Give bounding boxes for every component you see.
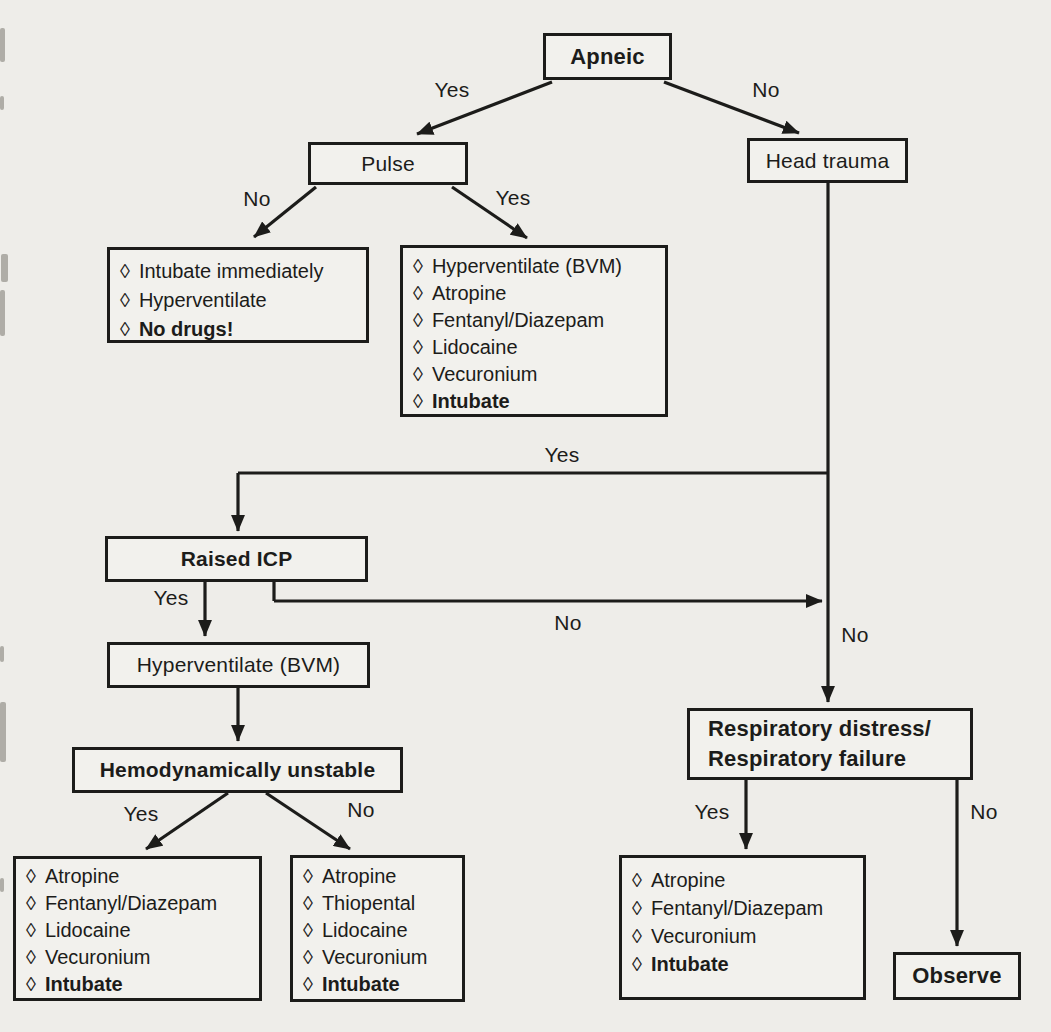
label-respiratory-no: No <box>970 800 997 824</box>
diamond-bullet-icon: ◊ <box>413 361 423 388</box>
scan-artifact <box>0 646 4 662</box>
list-item: ◊ Intubate <box>26 971 253 998</box>
label-raised-icp-no: No <box>554 611 581 635</box>
actions-respiratory-yes: ◊ Atropine ◊ Fentanyl/Diazepam ◊ Vecuron… <box>619 855 866 1000</box>
label-head-trauma-yes: Yes <box>544 443 579 467</box>
diamond-bullet-icon: ◊ <box>413 280 423 307</box>
list-item: ◊ Intubate <box>303 971 456 998</box>
diamond-bullet-icon: ◊ <box>303 890 313 917</box>
diamond-bullet-icon: ◊ <box>26 863 36 890</box>
diamond-bullet-icon: ◊ <box>26 971 36 998</box>
list-item: ◊ Atropine <box>413 280 659 307</box>
label-respiratory-yes: Yes <box>694 800 729 824</box>
list-item: ◊ Hyperventilate <box>120 286 360 315</box>
scan-artifact <box>1 254 8 282</box>
respiratory-line-1: Respiratory distress/ <box>708 714 931 744</box>
scan-artifact <box>0 878 4 892</box>
diamond-bullet-icon: ◊ <box>413 388 423 415</box>
node-head-trauma: Head trauma <box>747 138 908 183</box>
label-pulse-no: No <box>243 187 270 211</box>
list-item: ◊ Fentanyl/Diazepam <box>413 307 659 334</box>
diamond-bullet-icon: ◊ <box>303 917 313 944</box>
scan-artifact <box>0 28 5 62</box>
node-apneic: Apneic <box>543 33 672 80</box>
node-observe: Observe <box>893 952 1021 1000</box>
diamond-bullet-icon: ◊ <box>303 863 313 890</box>
diamond-bullet-icon: ◊ <box>632 866 642 894</box>
list-item: ◊ Atropine <box>26 863 253 890</box>
diamond-bullet-icon: ◊ <box>303 971 313 998</box>
label-unstable-yes: Yes <box>123 802 158 826</box>
diamond-bullet-icon: ◊ <box>26 890 36 917</box>
actions-pulse-yes: ◊ Hyperventilate (BVM) ◊ Atropine ◊ Fent… <box>400 245 668 417</box>
diamond-bullet-icon: ◊ <box>26 917 36 944</box>
node-pulse: Pulse <box>308 142 468 185</box>
list-item: ◊ Lidocaine <box>303 917 456 944</box>
label-apneic-yes: Yes <box>434 78 469 102</box>
scan-artifact <box>0 702 6 762</box>
diamond-bullet-icon: ◊ <box>413 253 423 280</box>
label-head-trauma-no: No <box>841 623 868 647</box>
list-item: ◊ Intubate <box>413 388 659 415</box>
diamond-bullet-icon: ◊ <box>413 334 423 361</box>
actions-unstable-yes: ◊ Atropine ◊ Fentanyl/Diazepam ◊ Lidocai… <box>13 856 262 1001</box>
node-hemodynamically-unstable: Hemodynamically unstable <box>72 747 403 793</box>
diamond-bullet-icon: ◊ <box>632 922 642 950</box>
list-item: ◊ No drugs! <box>120 315 360 344</box>
list-item: ◊ Intubate <box>632 950 857 978</box>
list-item: ◊ Intubate immediately <box>120 257 360 286</box>
label-unstable-no: No <box>347 798 374 822</box>
list-item: ◊ Fentanyl/Diazepam <box>26 890 253 917</box>
diamond-bullet-icon: ◊ <box>632 950 642 978</box>
scan-artifact <box>0 290 5 336</box>
diamond-bullet-icon: ◊ <box>120 257 130 286</box>
node-raised-icp: Raised ICP <box>105 536 368 582</box>
scan-artifact <box>0 96 4 110</box>
diamond-bullet-icon: ◊ <box>413 307 423 334</box>
label-raised-icp-yes: Yes <box>153 586 188 610</box>
label-apneic-no: No <box>752 78 779 102</box>
list-item: ◊ Vecuronium <box>632 922 857 950</box>
list-item: ◊ Thiopental <box>303 890 456 917</box>
list-item: ◊ Fentanyl/Diazepam <box>632 894 857 922</box>
list-item: ◊ Hyperventilate (BVM) <box>413 253 659 280</box>
list-item: ◊ Lidocaine <box>413 334 659 361</box>
actions-pulse-no: ◊ Intubate immediately ◊ Hyperventilate … <box>107 247 369 343</box>
list-item: ◊ Atropine <box>632 866 857 894</box>
list-item: ◊ Lidocaine <box>26 917 253 944</box>
label-pulse-yes: Yes <box>495 186 530 210</box>
diamond-bullet-icon: ◊ <box>120 286 130 315</box>
diamond-bullet-icon: ◊ <box>120 315 130 344</box>
list-item: ◊ Vecuronium <box>303 944 456 971</box>
edge-unstable-no <box>266 793 350 849</box>
respiratory-line-2: Respiratory failure <box>708 744 906 774</box>
list-item: ◊ Vecuronium <box>413 361 659 388</box>
node-hyperventilate-bvm: Hyperventilate (BVM) <box>107 642 370 688</box>
diamond-bullet-icon: ◊ <box>303 944 313 971</box>
actions-unstable-no: ◊ Atropine ◊ Thiopental ◊ Lidocaine ◊ Ve… <box>290 855 465 1002</box>
node-respiratory-distress: Respiratory distress/ Respiratory failur… <box>687 708 973 780</box>
diamond-bullet-icon: ◊ <box>26 944 36 971</box>
diamond-bullet-icon: ◊ <box>632 894 642 922</box>
flowchart-canvas: Apneic Pulse Head trauma Raised ICP Hype… <box>0 0 1051 1032</box>
list-item: ◊ Vecuronium <box>26 944 253 971</box>
list-item: ◊ Atropine <box>303 863 456 890</box>
